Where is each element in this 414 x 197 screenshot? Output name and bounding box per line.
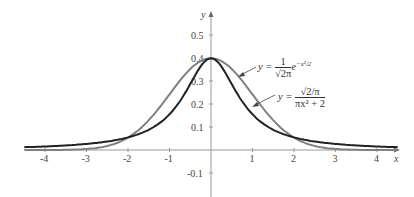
y-tick-label: -0.1: [187, 168, 203, 179]
x-tick-label: 2: [291, 153, 296, 164]
ann1-den: √2π: [275, 68, 291, 80]
y-tick-label: 0.1: [191, 122, 204, 133]
x-tick-label: 4: [374, 153, 379, 164]
x-tick-label: -2: [123, 153, 131, 164]
ann1-lhs: y =: [258, 61, 272, 72]
arrow-head-icon: [238, 72, 245, 77]
axes: xy-4-3-2-112340.50.40.30.20.1-0.1: [25, 9, 400, 197]
ann2-den: πx² + 2: [295, 98, 325, 110]
x-tick-label: -4: [40, 153, 48, 164]
ann2-num: √2/π: [295, 86, 325, 98]
arrow-cauchy: [255, 95, 275, 105]
annotation-normal: y = 1√2πe−x²/2: [258, 56, 311, 80]
y-axis-arrow-icon: [209, 11, 214, 17]
x-tick-label: 1: [250, 153, 255, 164]
ann1-fraction: 1√2π: [275, 56, 291, 80]
ann1-num: 1: [275, 56, 291, 68]
x-axis-label: x: [393, 153, 399, 164]
y-tick-label: 0.4: [191, 53, 204, 64]
ann2-lhs: y =: [278, 91, 292, 102]
x-tick-label: -3: [82, 153, 90, 164]
ann2-fraction: √2/ππx² + 2: [295, 86, 325, 110]
y-axis-label: y: [200, 9, 206, 20]
x-tick-label: 3: [333, 153, 338, 164]
y-tick-label: 0.2: [191, 99, 204, 110]
ann1-exp: −x²/2: [296, 60, 311, 68]
x-tick-label: -1: [165, 153, 173, 164]
y-tick-label: 0.5: [191, 30, 204, 41]
annotation-cauchy: y = √2/ππx² + 2: [278, 86, 325, 110]
chart-canvas: xy-4-3-2-112340.50.40.30.20.1-0.1: [0, 0, 414, 197]
